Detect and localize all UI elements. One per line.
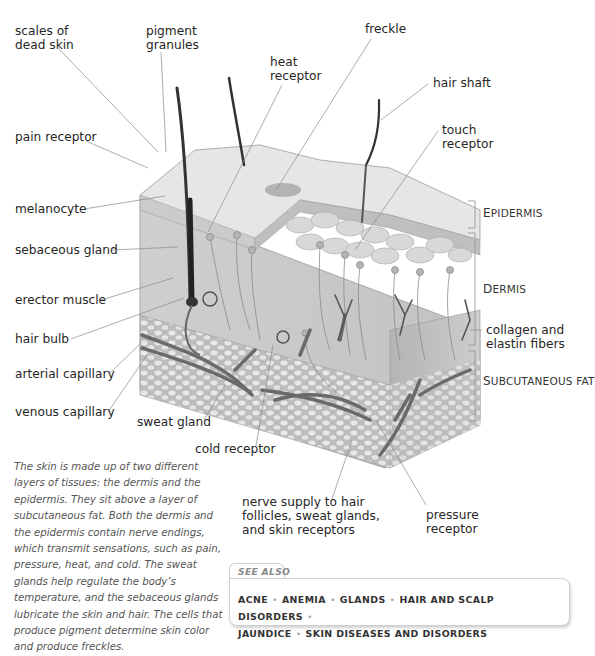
layer-label-epidermis: EPIDERMIS: [483, 207, 543, 220]
label-collagen-elastin: collagen and elastin fibers: [486, 323, 565, 351]
layer-label-subcutaneous-fat: SUBCUTANEOUS FAT: [483, 375, 595, 388]
label-cold-receptor: cold receptor: [195, 442, 276, 456]
see-also-links: ACNE•ANEMIA•GLANDS•HAIR AND SCALP DISORD…: [238, 591, 568, 642]
see-also-link-anemia[interactable]: ANEMIA: [282, 594, 326, 605]
label-erector-muscle: erector muscle: [15, 293, 106, 307]
caption-paragraph: The skin is made up of two different lay…: [14, 459, 229, 656]
label-sebaceous-gland: sebaceous gland: [15, 243, 118, 257]
layer-label-dermis: DERMIS: [483, 283, 526, 296]
label-freckle: freckle: [365, 22, 406, 36]
separator-dot: •: [386, 594, 400, 605]
label-pigment-granules: pigment granules: [146, 24, 199, 52]
separator-dot: •: [303, 611, 317, 622]
label-nerve-supply: nerve supply to hair follicles, sweat gl…: [242, 495, 380, 537]
separator-dot: •: [268, 594, 282, 605]
freckle-spot: [265, 183, 301, 197]
label-hair-bulb: hair bulb: [15, 332, 69, 346]
label-pain-receptor: pain receptor: [15, 130, 97, 144]
separator-dot: •: [326, 594, 340, 605]
label-arterial-capillary: arterial capillary: [15, 367, 115, 381]
label-hair-shaft: hair shaft: [433, 76, 491, 90]
label-scales-of-dead-skin: scales of dead skin: [15, 24, 74, 52]
label-pressure-receptor: pressure receptor: [426, 508, 479, 536]
label-heat-receptor: heat receptor: [270, 55, 321, 83]
label-venous-capillary: venous capillary: [15, 405, 115, 419]
see-also-title: SEE ALSO: [238, 566, 290, 577]
see-also-link-glands[interactable]: GLANDS: [340, 594, 386, 605]
label-touch-receptor: touch receptor: [442, 123, 493, 151]
see-also-link-jaundice[interactable]: JAUNDICE: [238, 628, 292, 639]
label-sweat-gland: sweat gland: [137, 415, 211, 429]
see-also-link-skin-diseases[interactable]: SKIN DISEASES AND DISORDERS: [306, 628, 488, 639]
label-melanocyte: melanocyte: [15, 202, 87, 216]
separator-dot: •: [292, 628, 306, 639]
see-also-link-acne[interactable]: ACNE: [238, 594, 268, 605]
